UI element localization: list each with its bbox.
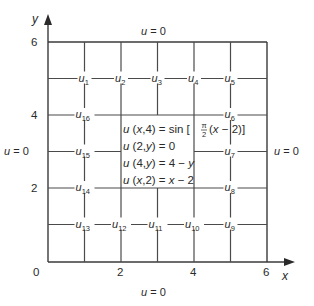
x-axis-arrow-icon (284, 258, 295, 266)
finite-difference-grid-diagram: y x u1u2u3u4u5u6u7u8u9u10u11u12u13u14u15… (0, 0, 314, 306)
bc-left: u = 0 (4, 145, 29, 157)
bc-top: u = 0 (141, 25, 166, 37)
pi-over-2-fraction: π (201, 121, 206, 130)
condition-left-edge: u (2,y) = 0 (123, 140, 175, 152)
y-tick-6: 6 (31, 36, 37, 48)
y-axis-arrow-icon (44, 14, 52, 25)
condition-top-edge: u (x,4) = sin [ (123, 123, 191, 135)
x-tick-4: 4 (190, 266, 197, 278)
y-tick-2: 2 (31, 182, 37, 194)
svg-text:2: 2 (202, 130, 206, 139)
y-axis-label: y (31, 12, 39, 26)
bc-bottom: u = 0 (141, 286, 166, 298)
x-tick-6: 6 (263, 266, 269, 278)
y-tick-4: 4 (31, 109, 38, 121)
condition-bottom-edge: u (x,2) = x − 2 (123, 174, 194, 186)
bc-right: u = 0 (274, 145, 299, 157)
origin-label: 0 (33, 266, 39, 278)
svg-text:(x − 2)]: (x − 2)] (209, 123, 245, 135)
x-axis-label: x (281, 269, 289, 283)
x-tick-2: 2 (117, 266, 123, 278)
condition-right-edge: u (4,y) = 4 − y (123, 157, 195, 169)
